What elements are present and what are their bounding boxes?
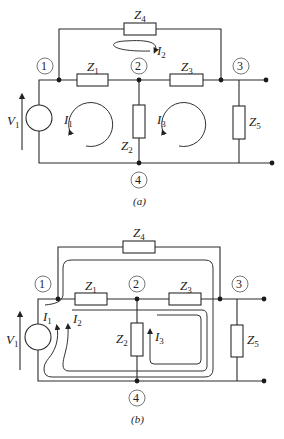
node-dot <box>57 78 62 83</box>
i2-label: I2 <box>72 311 82 328</box>
z5-impedance <box>231 325 243 357</box>
terminal-dot <box>262 379 267 384</box>
i3-label: I3 <box>154 329 164 346</box>
node-dot <box>219 78 224 83</box>
z5-label: Z5 <box>247 332 259 349</box>
svg-text:3: 3 <box>236 277 242 291</box>
z4-label: Z4 <box>134 7 146 24</box>
z2-label: Z2 <box>116 331 128 348</box>
node-4-label: 4 <box>129 390 145 406</box>
svg-text:3: 3 <box>237 59 243 73</box>
voltage-source-icon <box>26 105 52 131</box>
loop-i2-icon <box>114 41 156 51</box>
node-dot <box>137 78 142 83</box>
v1-label: V1 <box>7 113 19 130</box>
node-2-label: 2 <box>129 276 145 292</box>
z5-label: Z5 <box>249 114 261 131</box>
z2-label: Z2 <box>121 138 133 155</box>
diagram-a: 1 2 3 4 Z4 Z1 Z3 Z2 Z5 V1 I1 I2 I3 (a) <box>7 7 274 208</box>
node-2-label: 2 <box>131 58 147 74</box>
svg-text:2: 2 <box>133 277 139 291</box>
loop-i1-icon <box>69 103 113 147</box>
v1-label: V1 <box>6 332 18 349</box>
i3-label: I3 <box>156 112 166 129</box>
z2-impedance <box>131 323 143 356</box>
voltage-source-icon <box>25 324 51 350</box>
svg-text:2: 2 <box>135 59 141 73</box>
svg-text:1: 1 <box>39 277 45 291</box>
z1-impedance <box>75 293 107 305</box>
node-dot <box>135 297 140 302</box>
node-1-label: 1 <box>37 58 53 74</box>
z4-impedance <box>123 241 155 253</box>
node-dot <box>137 161 142 166</box>
z4-impedance <box>124 23 156 35</box>
svg-text:4: 4 <box>135 173 141 187</box>
svg-text:1: 1 <box>41 59 47 73</box>
z3-label: Z3 <box>180 278 192 295</box>
z3-impedance <box>169 293 201 305</box>
z5-impedance <box>233 106 245 139</box>
node-dot <box>135 379 140 384</box>
z3-label: Z3 <box>181 59 193 76</box>
terminal-dot <box>270 161 275 166</box>
z3-impedance <box>170 74 203 86</box>
loop-i1-icon <box>44 260 213 377</box>
caption-b: (b) <box>131 413 144 426</box>
node-dot <box>218 297 223 302</box>
i1-label: I1 <box>42 309 52 326</box>
node-4-label: 4 <box>131 172 147 188</box>
loop-i3-icon <box>162 103 206 147</box>
z1-impedance <box>77 74 108 86</box>
diagram-b: 1 2 3 4 Z4 Z1 Z3 Z2 Z5 V1 I1 I2 I3 (b) <box>6 225 266 426</box>
terminal-dot <box>264 78 269 83</box>
node-1-label: 1 <box>35 276 51 292</box>
caption-a: (a) <box>133 195 146 208</box>
node-3-label: 3 <box>233 58 249 74</box>
z1-label: Z1 <box>85 278 97 295</box>
terminal-dot <box>262 297 267 302</box>
z2-impedance <box>133 105 145 138</box>
node-3-label: 3 <box>232 276 248 292</box>
z1-label: Z1 <box>87 59 99 76</box>
z4-label: Z4 <box>133 225 145 242</box>
i2-label: I2 <box>156 43 166 60</box>
svg-text:4: 4 <box>133 391 139 405</box>
circuit-figure: 1 2 3 4 Z4 Z1 Z3 Z2 Z5 V1 I1 I2 I3 (a) <box>0 0 284 439</box>
